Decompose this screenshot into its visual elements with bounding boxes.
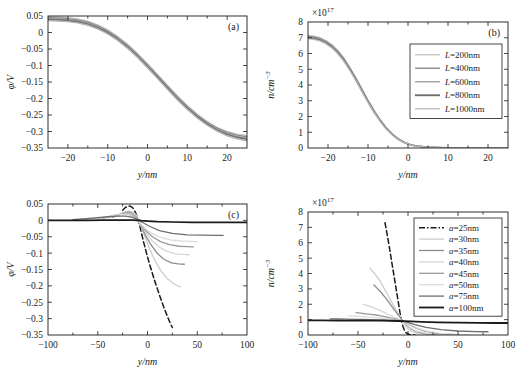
- y-tick-label: −0.05: [21, 44, 43, 54]
- y-tick-label: 0.05: [26, 11, 43, 21]
- y-tick-label: 0.05: [26, 199, 43, 209]
- legend-label: L=600nm: [444, 77, 480, 87]
- axis-exponent: ×1017: [312, 196, 334, 208]
- x-tick-label: −20: [321, 153, 336, 163]
- y-axis-label: n/cm−3: [264, 71, 276, 99]
- panel-c: −100−500501000.050−0.05−0.1−0.15−0.2−0.2…: [0, 190, 260, 383]
- y-tick-label: 4: [298, 80, 303, 90]
- panel-c-plot: −100−500501000.050−0.05−0.1−0.15−0.2−0.2…: [0, 190, 260, 383]
- y-tick-label: 5: [298, 65, 303, 75]
- y-tick-label: 1: [298, 128, 303, 138]
- legend-label: a=45nm: [449, 269, 479, 279]
- x-tick-label: 0: [145, 153, 150, 163]
- y-tick-label: 1: [298, 315, 303, 325]
- series-line-l-1000nm: [48, 21, 247, 141]
- legend-label: a=75nm: [449, 291, 479, 301]
- legend-label: L=400nm: [444, 63, 480, 73]
- y-tick-label: 5: [298, 254, 303, 264]
- y-tick-label: −0.25: [21, 110, 43, 120]
- y-tick-label: 8: [298, 17, 303, 27]
- panel-a-series-group: [48, 17, 247, 141]
- panel-label: (c): [228, 209, 239, 221]
- series-line-a-100nm: [48, 220, 247, 222]
- y-tick-label: −0.1: [26, 61, 43, 71]
- y-tick-label: −0.2: [26, 94, 43, 104]
- legend-label: a=25nm: [449, 223, 479, 233]
- series-line-l-800nm: [48, 20, 247, 140]
- axis-exponent: ×1017: [312, 6, 334, 18]
- x-tick-label: 0: [406, 153, 411, 163]
- legend-label: a=50nm: [449, 280, 479, 290]
- x-axis-label: y/nm: [137, 169, 157, 180]
- x-axis-label: y/nm: [137, 356, 157, 367]
- y-tick-label: 2: [298, 300, 303, 310]
- x-tick-label: −20: [60, 153, 75, 163]
- figure-canvas: −20−10010200.050−0.05−0.1−0.15−0.2−0.25−…: [0, 0, 521, 383]
- panel-c-series-group: [48, 206, 247, 328]
- series-line-l-600nm: [48, 19, 247, 138]
- panel-b: −20−1001020012345678y/nmn/cm−3×1017(b)L=…: [256, 0, 521, 192]
- y-tick-label: 7: [298, 33, 303, 43]
- axes-frame: [48, 204, 247, 335]
- x-tick-label: −10: [100, 153, 115, 163]
- panel-label: (b): [488, 27, 500, 39]
- legend-label: a=30nm: [449, 234, 479, 244]
- y-axis-label: n/cm−3: [264, 259, 276, 287]
- y-tick-label: −0.35: [21, 143, 43, 153]
- y-tick-label: −0.35: [21, 330, 43, 340]
- panel-a: −20−10010200.050−0.05−0.1−0.15−0.2−0.25−…: [0, 0, 260, 192]
- y-tick-label: −0.05: [21, 232, 43, 242]
- legend: L=200nmL=400nmL=600nmL=800nmL=1000nm: [410, 44, 502, 119]
- y-axis-label: φ/V: [5, 260, 16, 276]
- legend-label: a=100nm: [449, 303, 484, 313]
- legend-label: L=800nm: [444, 90, 480, 100]
- y-tick-label: 4: [298, 269, 303, 279]
- x-tick-label: 10: [183, 153, 193, 163]
- y-tick-label: 0: [298, 330, 303, 340]
- y-tick-label: −0.2: [26, 281, 43, 291]
- x-tick-label: 20: [222, 153, 232, 163]
- y-tick-label: 6: [298, 238, 303, 248]
- y-tick-label: −0.15: [21, 77, 43, 87]
- panel-b-plot: −20−1001020012345678y/nmn/cm−3×1017(b)L=…: [256, 0, 521, 192]
- legend-label: L=200nm: [444, 50, 480, 60]
- x-tick-label: 0: [145, 340, 150, 350]
- x-axis-label: y/nm: [397, 356, 417, 367]
- y-tick-label: 2: [298, 112, 303, 122]
- y-tick-label: 0: [298, 143, 303, 153]
- y-tick-label: −0.3: [26, 314, 43, 324]
- panel-d-plot: −100−50050100012345678y/nmn/cm−3×1017(d)…: [256, 190, 521, 383]
- x-tick-label: −50: [90, 340, 105, 350]
- panel-d: −100−50050100012345678y/nmn/cm−3×1017(d)…: [256, 190, 521, 383]
- x-tick-label: −10: [361, 153, 376, 163]
- y-tick-label: −0.3: [26, 127, 43, 137]
- legend-label: L=1000nm: [444, 104, 485, 114]
- y-tick-label: 6: [298, 49, 303, 59]
- legend-label: a=40nm: [449, 257, 479, 267]
- x-tick-label: −100: [298, 340, 318, 350]
- series-line-a-50nm: [348, 316, 470, 335]
- series-line-l-400nm: [48, 18, 247, 137]
- y-tick-label: 8: [298, 207, 303, 217]
- y-tick-label: −0.1: [26, 249, 43, 259]
- x-axis-label: y/nm: [397, 169, 417, 180]
- y-tick-label: 3: [298, 96, 303, 106]
- series-line-a-25nm: [123, 206, 173, 328]
- y-axis-label: φ/V: [5, 73, 16, 89]
- y-tick-label: 0: [38, 216, 43, 226]
- series-line-l-200nm: [48, 17, 247, 136]
- x-tick-label: 50: [193, 340, 203, 350]
- y-tick-label: −0.25: [21, 298, 43, 308]
- x-tick-label: 100: [501, 340, 516, 350]
- legend: a=25nma=30nma=35nma=40nma=45nma=50nma=75…: [414, 218, 502, 316]
- x-tick-label: −50: [351, 340, 366, 350]
- x-tick-label: 50: [453, 340, 463, 350]
- y-tick-label: 0: [38, 28, 43, 38]
- panel-label: (a): [228, 21, 239, 33]
- panel-a-plot: −20−10010200.050−0.05−0.1−0.15−0.2−0.25−…: [0, 0, 260, 192]
- x-tick-label: −100: [38, 340, 58, 350]
- y-tick-label: −0.15: [21, 265, 43, 275]
- y-tick-label: 7: [298, 223, 303, 233]
- y-tick-label: 3: [298, 284, 303, 294]
- x-tick-label: 100: [240, 340, 255, 350]
